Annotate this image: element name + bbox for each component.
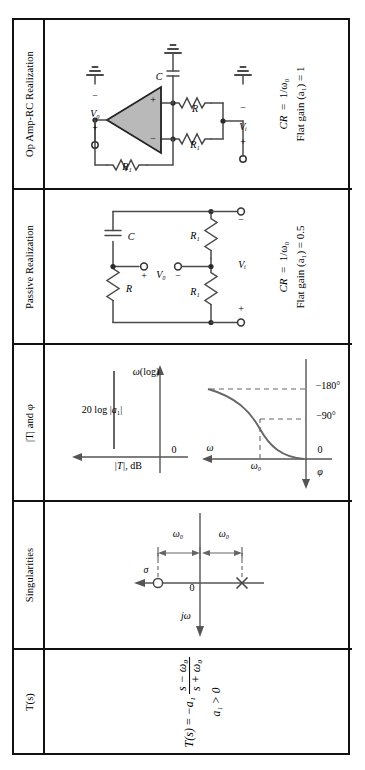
phase-x-axis-label: φ: [317, 466, 323, 477]
transfer-function-condition: a₁ > 0: [209, 627, 221, 770]
passive-circuit-svg: R C R₁ R₁: [99, 199, 249, 334]
passive-notes: CR = 1/ω₀ Flat gain (a₁) = 0.5: [276, 197, 305, 337]
label-lower-r1: R₁: [189, 139, 200, 150]
phase-y-arrow: [202, 455, 212, 463]
vin-name: Vᵢ: [238, 258, 246, 269]
vout-name: V₀: [156, 268, 166, 279]
phase-x-arrow: [302, 479, 310, 489]
vout-label: V₀: [90, 108, 100, 119]
magnitude-origin-label: 0: [171, 444, 176, 455]
node-dot-bottom-mid: [208, 263, 213, 268]
op-amp-notes: CR = 1/ω₀ Flat gain (a₁) = 1: [276, 34, 305, 174]
vin-plus-label: +: [240, 136, 246, 147]
allpass-filter-reference-table: Op Amp-RC Realization: [0, 0, 365, 770]
flat-level-label: 20 log |a₁|: [82, 404, 122, 415]
label-top-c: C: [128, 230, 135, 241]
label-feedback-r1: R₁: [121, 161, 132, 172]
label-bottom-left-r1: R₁: [189, 285, 200, 296]
label-capacitor-c: C: [155, 71, 162, 82]
phase-omega0-tick-label: ω₀: [251, 460, 262, 471]
op-amp-note-gain: Flat gain (a₁) = 1: [293, 34, 305, 174]
phase-tick-minus-90: −90°: [316, 410, 336, 421]
row-body-ts: T(s) = −a₁ s − ω₀ s + ω₀ a₁ > 0: [45, 650, 352, 753]
vin-plus-sign: +: [238, 302, 244, 313]
tf-denominator: s + ω₀: [190, 656, 203, 693]
op-amp-inverting-input-label: −: [150, 133, 156, 144]
phase-plot: ω ω₀ φ 0 −90°: [186, 353, 346, 493]
magnitude-plot: |T|, dB 0 ω(log) 20 log |a₁|: [56, 363, 206, 483]
phase-curve: [208, 389, 304, 459]
magnitude-x-axis-label: ω(log): [133, 366, 160, 378]
pole-zero-svg: σ jω 0 ω₀ ω₀: [124, 505, 274, 645]
label-top-r: R: [125, 282, 132, 293]
omega0-upper-dimension: [158, 547, 200, 559]
row-label-magphase: |T| and φ: [23, 404, 34, 442]
row-body-op-amp: R₁ R₁ R C: [45, 20, 352, 188]
row-label-singularities: Singularities: [23, 548, 34, 602]
sigma-axis-label: σ: [143, 564, 149, 575]
transfer-function-equation: T(s) = −a₁ s − ω₀ s + ω₀: [176, 627, 204, 770]
label-bottom-right-r1: R₁: [189, 229, 200, 240]
op-amp-noninverting-input-label: +: [150, 94, 156, 105]
omega0-lower-dimension: [202, 547, 242, 559]
vout-plus-terminal: [141, 263, 148, 270]
table-row-magnitude-phase: |T| and φ: [14, 345, 352, 502]
transfer-function-block: T(s) = −a₁ s − ω₀ s + ω₀ a₁ > 0: [176, 627, 222, 770]
magnitude-y-axis-label: |T|, dB: [114, 460, 142, 471]
label-lower-r: R: [191, 103, 198, 114]
node-dot-top-mid: [110, 263, 115, 268]
vout-plus-label: +: [92, 122, 98, 133]
row-label-ts: T(s): [23, 693, 34, 711]
tf-numerator: s − ω₀: [176, 656, 190, 693]
rotated-reference-table: Op Amp-RC Realization: [12, 18, 350, 755]
phase-origin-label: 0: [318, 444, 323, 455]
node-dot-input: [220, 118, 225, 123]
vin-minus-label: −: [240, 102, 246, 113]
row-label-cell-magphase: |T| and φ: [14, 345, 45, 500]
op-amp-circuit-diagram: R₁ R₁ R C: [73, 29, 263, 179]
vout-minus-label: −: [92, 90, 98, 101]
phase-tick-minus-180: −180°: [316, 380, 341, 391]
op-amp-circuit-svg: R₁ R₁ R C: [73, 29, 263, 179]
magnitude-y-arrow: [72, 453, 82, 461]
phase-plot-svg: ω ω₀ φ 0 −90°: [186, 353, 346, 493]
vin-plus-terminal: [238, 319, 245, 326]
tf-fraction: s − ω₀ s + ω₀: [176, 656, 204, 693]
vout-minus-sign: −: [175, 269, 181, 280]
passive-note-gain: Flat gain (a₁) = 0.5: [293, 197, 305, 337]
tf-leading-coefficient: −a₁: [181, 697, 195, 715]
table-row-passive-realization: Passive Realization: [14, 190, 352, 345]
jomega-axis-label: jω: [179, 610, 191, 621]
passive-note-cr: CR = 1/ω₀: [276, 197, 288, 337]
pole-distance-label: ω₀: [218, 528, 229, 539]
vin-label: Vᵢ: [239, 121, 247, 132]
vout-plus-sign: +: [141, 269, 147, 280]
row-label-cell-passive: Passive Realization: [14, 190, 45, 343]
row-label-cell-ts: T(s): [14, 650, 45, 753]
pole-zero-plot: σ jω 0 ω₀ ω₀: [124, 505, 274, 645]
table-row-transfer-function: T(s) T(s) = −a₁ s − ω₀ s + ω₀ a₁ > 0: [14, 650, 352, 753]
op-amp-note-cr: CR = 1/ω₀: [276, 34, 288, 174]
row-label-op-amp: Op Amp-RC Realization: [23, 51, 34, 157]
row-label-passive: Passive Realization: [23, 225, 34, 309]
zero-circle-marker: [153, 578, 162, 587]
row-label-cell-singularities: Singularities: [14, 502, 45, 648]
origin-label: 0: [189, 582, 194, 593]
tf-equals: =: [181, 718, 195, 725]
zero-distance-label: ω₀: [172, 528, 183, 539]
passive-bridge-circuit-diagram: R C R₁ R₁: [99, 199, 249, 334]
row-body-magphase: |T|, dB 0 ω(log) 20 log |a₁|: [45, 345, 352, 500]
phase-y-axis-label: ω: [207, 442, 214, 453]
sigma-axis-arrow: [134, 579, 145, 587]
magnitude-plot-svg: |T|, dB 0 ω(log) 20 log |a₁|: [56, 363, 206, 483]
tf-lhs: T(s): [181, 728, 195, 747]
row-label-cell-op-amp: Op Amp-RC Realization: [14, 20, 45, 188]
vout-minus-terminal: [175, 263, 182, 270]
input-terminal-circle: [240, 156, 246, 162]
vin-minus-sign: −: [238, 213, 244, 224]
table-row-op-amp-realization: Op Amp-RC Realization: [14, 20, 352, 190]
row-body-passive: R C R₁ R₁: [45, 190, 352, 343]
